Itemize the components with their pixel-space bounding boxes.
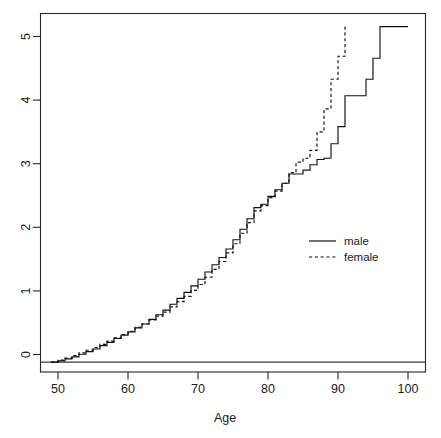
y-tick-label-1: 1	[19, 287, 33, 294]
legend-label-female: female	[344, 251, 379, 263]
x-tick-label-60: 60	[121, 382, 135, 396]
x-tick-label-50: 50	[51, 382, 65, 396]
x-tick-label-100: 100	[398, 382, 419, 396]
legend-label-male: male	[344, 235, 369, 247]
x-tick-label-80: 80	[261, 382, 275, 396]
x-axis-title: Age	[214, 411, 236, 425]
y-tick-label-2: 2	[19, 224, 33, 231]
y-tick-label-0: 0	[19, 351, 33, 358]
x-tick-label-70: 70	[191, 382, 205, 396]
y-tick-label-3: 3	[19, 160, 33, 167]
y-tick-label-5: 5	[19, 33, 33, 40]
x-tick-label-90: 90	[331, 382, 345, 396]
y-tick-label-4: 4	[19, 97, 33, 104]
cumulative-hazard-chart: 0 1 2 3 4 5 50 60 70 80 90 100 Age male …	[0, 0, 441, 438]
